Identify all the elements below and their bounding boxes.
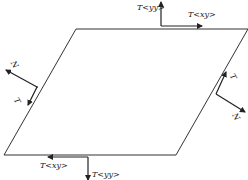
right-normal-arrow-icon [216,94,245,112]
right-face-tractions: T N [216,72,245,123]
bottom-shear-label: T<xy> [40,161,68,170]
left-face-tractions: N T [6,58,37,106]
top-normal-label: T<yy> [137,3,165,12]
left-tangent-arrow-icon [28,87,37,105]
bottom-normal-label: T<yy> [92,170,120,179]
top-face-tractions: T<yy> T<xy> [137,2,216,26]
left-normal-arrow-icon [6,70,37,87]
left-normal-label: N [8,58,20,70]
parallelogram-element [4,29,248,155]
right-normal-label: N [230,111,242,123]
bottom-face-tractions: T<xy> T<yy> [40,157,120,180]
top-shear-label: T<xy> [188,10,216,19]
stress-element-diagram: T<yy> T<xy> N T T N T<xy> T<yy> [0,0,248,180]
left-tangent-label: T [12,96,23,106]
right-tangent-label: T [228,72,239,82]
